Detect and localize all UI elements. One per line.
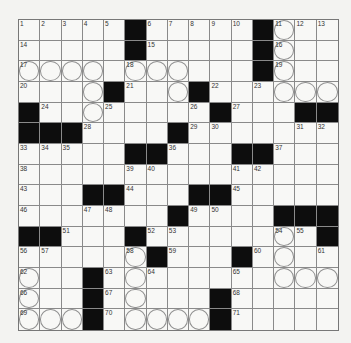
grid-cell[interactable] [189,289,210,310]
grid-cell[interactable] [253,123,274,144]
grid-cell[interactable]: 40 [147,165,168,186]
grid-cell[interactable]: 64 [147,268,168,289]
grid-cell[interactable]: 5 [104,20,125,41]
grid-cell[interactable]: 69 [19,309,40,330]
grid-cell[interactable] [62,185,83,206]
grid-cell[interactable] [317,82,338,103]
grid-cell[interactable]: 66 [19,289,40,310]
grid-cell[interactable] [189,309,210,330]
grid-cell[interactable] [295,82,316,103]
grid-cell[interactable] [253,227,274,248]
grid-cell[interactable] [274,82,295,103]
grid-cell[interactable] [210,165,231,186]
grid-cell[interactable]: 16 [274,41,295,62]
grid-cell[interactable] [147,206,168,227]
grid-cell[interactable] [168,165,189,186]
grid-cell[interactable]: 11 [274,20,295,41]
grid-cell[interactable]: 31 [295,123,316,144]
grid-cell[interactable] [210,144,231,165]
grid-cell[interactable]: 49 [189,206,210,227]
grid-cell[interactable] [189,247,210,268]
grid-cell[interactable]: 68 [232,289,253,310]
grid-cell[interactable] [40,206,61,227]
grid-cell[interactable] [274,103,295,124]
grid-cell[interactable]: 52 [147,227,168,248]
grid-cell[interactable]: 38 [19,165,40,186]
grid-cell[interactable]: 29 [189,123,210,144]
grid-cell[interactable] [232,123,253,144]
grid-cell[interactable] [125,268,146,289]
grid-cell[interactable]: 56 [19,247,40,268]
grid-cell[interactable] [295,247,316,268]
grid-cell[interactable] [317,289,338,310]
grid-cell[interactable] [295,41,316,62]
grid-cell[interactable]: 19 [274,61,295,82]
grid-cell[interactable]: 36 [168,144,189,165]
grid-cell[interactable]: 30 [210,123,231,144]
grid-cell[interactable] [253,289,274,310]
grid-cell[interactable] [295,61,316,82]
grid-cell[interactable] [253,206,274,227]
grid-cell[interactable]: 32 [317,123,338,144]
grid-cell[interactable] [232,206,253,227]
grid-cell[interactable]: 28 [83,123,104,144]
grid-cell[interactable]: 22 [210,82,231,103]
grid-cell[interactable]: 45 [232,185,253,206]
grid-cell[interactable]: 8 [189,20,210,41]
grid-cell[interactable] [125,206,146,227]
grid-cell[interactable]: 60 [253,247,274,268]
grid-cell[interactable] [83,165,104,186]
grid-cell[interactable] [104,123,125,144]
grid-cell[interactable] [40,61,61,82]
grid-cell[interactable] [210,61,231,82]
grid-cell[interactable] [168,41,189,62]
grid-cell[interactable]: 44 [125,185,146,206]
grid-cell[interactable]: 41 [232,165,253,186]
grid-cell[interactable] [62,82,83,103]
grid-cell[interactable] [274,247,295,268]
grid-cell[interactable]: 4 [83,20,104,41]
grid-cell[interactable] [147,185,168,206]
grid-cell[interactable]: 26 [189,103,210,124]
grid-cell[interactable] [317,61,338,82]
grid-cell[interactable]: 39 [125,165,146,186]
grid-cell[interactable] [189,268,210,289]
grid-cell[interactable] [232,41,253,62]
grid-cell[interactable]: 65 [232,268,253,289]
grid-cell[interactable] [62,289,83,310]
grid-cell[interactable]: 48 [104,206,125,227]
grid-cell[interactable]: 59 [168,247,189,268]
grid-cell[interactable] [253,309,274,330]
grid-cell[interactable] [40,82,61,103]
grid-cell[interactable] [83,247,104,268]
grid-cell[interactable] [253,268,274,289]
grid-cell[interactable] [62,206,83,227]
grid-cell[interactable] [104,41,125,62]
grid-cell[interactable]: 62 [19,268,40,289]
grid-cell[interactable] [189,165,210,186]
grid-cell[interactable]: 70 [104,309,125,330]
grid-cell[interactable] [274,123,295,144]
grid-cell[interactable] [125,123,146,144]
grid-cell[interactable]: 54 [274,227,295,248]
grid-cell[interactable] [168,309,189,330]
grid-cell[interactable] [62,41,83,62]
grid-cell[interactable]: 3 [62,20,83,41]
grid-cell[interactable] [83,144,104,165]
grid-cell[interactable] [147,289,168,310]
grid-cell[interactable]: 50 [210,206,231,227]
grid-cell[interactable] [62,247,83,268]
grid-cell[interactable] [40,185,61,206]
grid-cell[interactable]: 9 [210,20,231,41]
grid-cell[interactable]: 25 [104,103,125,124]
grid-cell[interactable]: 2 [40,20,61,41]
grid-cell[interactable]: 1 [19,20,40,41]
grid-cell[interactable] [40,309,61,330]
grid-cell[interactable] [274,165,295,186]
grid-cell[interactable] [62,309,83,330]
grid-cell[interactable] [210,41,231,62]
grid-cell[interactable] [168,268,189,289]
grid-cell[interactable] [104,61,125,82]
grid-cell[interactable] [189,227,210,248]
grid-cell[interactable] [295,144,316,165]
